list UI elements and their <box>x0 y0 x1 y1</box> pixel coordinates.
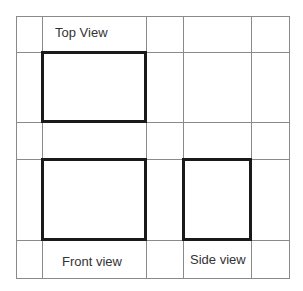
side-view-rectangle <box>182 158 252 241</box>
front-view-label: Front view <box>62 254 122 269</box>
grid-hline <box>16 16 290 17</box>
side-view-label: Side view <box>190 252 246 267</box>
top-view-rectangle <box>41 51 147 123</box>
grid-hline <box>16 278 290 279</box>
top-view-label: Top View <box>55 25 108 40</box>
front-view-rectangle <box>41 158 147 241</box>
